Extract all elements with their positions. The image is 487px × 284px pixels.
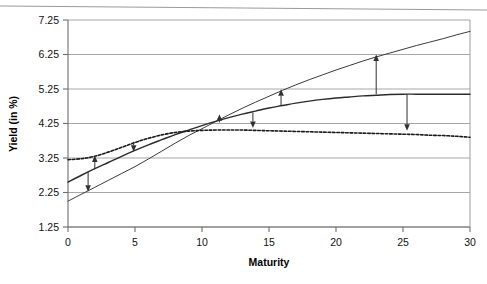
- x-tick-label: 15: [263, 236, 275, 248]
- y-tick-label: 3.25: [39, 152, 60, 164]
- x-tick-label: 25: [397, 236, 409, 248]
- y-tick-label: 7.25: [39, 14, 60, 26]
- x-tick-label: 10: [196, 236, 208, 248]
- yield-curve-chart: 1.252.253.254.255.256.257.25 05101520253…: [0, 0, 487, 284]
- x-tick-label: 5: [132, 236, 138, 248]
- x-tick-label: 0: [65, 236, 71, 248]
- x-tick-label: 30: [464, 236, 476, 248]
- y-tick-label: 4.25: [39, 117, 60, 129]
- chart-figure: 1.252.253.254.255.256.257.25 05101520253…: [0, 0, 487, 284]
- y-tick-label: 5.25: [39, 83, 60, 95]
- x-tick-label: 20: [330, 236, 342, 248]
- x-axis-title: Maturity: [249, 256, 290, 268]
- y-axis-title: Yield (in %): [7, 96, 19, 152]
- y-tick-label: 1.25: [39, 221, 60, 233]
- chart-background: [0, 0, 487, 284]
- y-tick-label: 2.25: [39, 186, 60, 198]
- y-tick-label: 6.25: [39, 48, 60, 60]
